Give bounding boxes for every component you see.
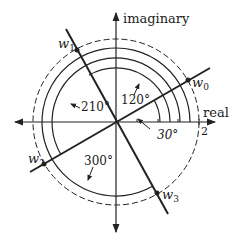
pointer-30: [138, 119, 150, 129]
point-w1: [75, 48, 80, 53]
angle-label-300: 300°: [84, 154, 113, 168]
pointer-300: [88, 167, 93, 180]
line-w0-w2: [30, 68, 210, 172]
imaginary-axis-label: imaginary: [123, 11, 190, 26]
point-w0: [186, 78, 191, 83]
roots-of-unity-diagram: imaginary real 2 30° 120° 210° 300° w0 w…: [0, 0, 233, 240]
arc-30: [154, 100, 160, 122]
label-w0: w0: [192, 75, 209, 92]
angle-label-120: 120°: [121, 93, 150, 107]
angle-label-30: 30°: [157, 128, 178, 142]
real-axis-label: real: [203, 105, 229, 120]
tick-label-2: 2: [201, 125, 208, 138]
pointer-210: [71, 104, 80, 108]
label-w3: w3: [162, 187, 179, 204]
angle-label-210: 210°: [81, 100, 110, 114]
label-w2: w2: [28, 151, 45, 168]
point-w3: [155, 191, 160, 196]
